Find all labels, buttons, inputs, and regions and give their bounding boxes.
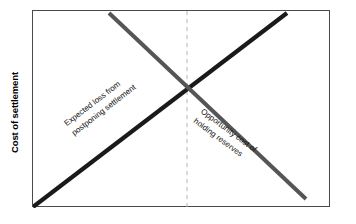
expected-loss-line [33,13,287,207]
y-axis-label-text: Cost of settlement [10,71,21,152]
opportunity-cost-line [109,13,306,199]
y-axis-label: Cost of settlement [0,0,30,224]
chart-figure: Cost of settlement Expected loss from po… [0,0,356,224]
